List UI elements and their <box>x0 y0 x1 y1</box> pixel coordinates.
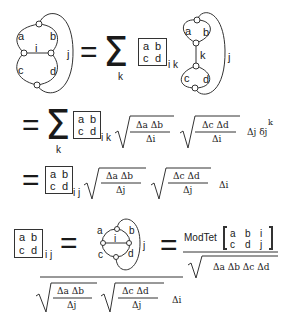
sqrt1-denominator: Δi <box>146 135 155 144</box>
equals-sign: = <box>80 37 98 67</box>
sum-index: k <box>56 145 61 155</box>
sum-symbol: Σ <box>45 105 70 145</box>
trailing-factor: Δj δj <box>247 128 267 137</box>
edge-label-j: j <box>143 240 145 251</box>
symbol-box: a b c d <box>14 229 43 258</box>
kronecker-superscript: k <box>268 118 273 127</box>
edge-label-c: c <box>184 73 190 84</box>
edge-label-d: d <box>203 74 209 85</box>
box-entry-c: c <box>50 181 56 192</box>
edge-label-d: d <box>50 66 56 77</box>
edge-label-i: i <box>35 43 37 54</box>
equals-sign: = <box>160 230 178 260</box>
edge-label-a: a <box>18 31 24 42</box>
sqrt1-numerator: Δa Δb <box>136 121 163 130</box>
box-subscript: i k <box>101 133 111 143</box>
box-entry-b: b <box>62 169 68 180</box>
edge-label-b: b <box>203 27 209 38</box>
edge-label-j: j <box>228 52 230 63</box>
modtet-entry: d <box>245 239 251 250</box>
equals-sign: = <box>22 165 40 195</box>
modtet-entry: j <box>260 239 262 250</box>
box-entry-a: a <box>19 232 25 243</box>
trailing-factor: Δi <box>219 181 228 190</box>
edge-label-c: c <box>98 249 103 260</box>
box-subscript: i j <box>73 188 80 198</box>
sqrt2-denominator: Δj <box>183 186 192 195</box>
edge-label-i: i <box>114 233 116 244</box>
box-subscript: i j <box>45 250 52 260</box>
sqrt2-numerator: Δc Δd <box>202 121 229 130</box>
modtet-label: ModTet <box>184 232 217 243</box>
equals-sign: = <box>22 110 40 140</box>
sqrt1-denominator: Δj <box>116 186 125 195</box>
box-entry-c: c <box>78 126 84 137</box>
equals-sign: = <box>60 228 78 258</box>
sqrt2-numerator: Δc Δd <box>173 172 200 181</box>
sqrt2-denominator: Δi <box>212 135 221 144</box>
edge-label-a: a <box>97 225 103 236</box>
modtet-entry: a <box>230 228 236 239</box>
edge-label-j: j <box>67 49 69 60</box>
edge-label-c: c <box>18 65 24 76</box>
sqrt1-denominator: Δj <box>67 301 76 310</box>
symbol-box: a b c d <box>73 111 101 139</box>
box-entry-d: d <box>62 181 68 192</box>
sqrt1-numerator: Δa Δb <box>106 172 133 181</box>
symbol-box: a b c d <box>45 166 73 194</box>
box-entry-b: b <box>31 232 37 243</box>
box-entry-d: d <box>155 53 161 64</box>
modtet-entry: i <box>260 228 262 239</box>
sqrt2-denominator: Δj <box>132 301 141 310</box>
edge-label-b: b <box>50 31 56 42</box>
box-entry-a: a <box>50 169 56 180</box>
box-entry-b: b <box>90 114 96 125</box>
box-entry-d: d <box>90 126 96 137</box>
edge-label-k: k <box>200 50 206 61</box>
box-entry-a: a <box>143 41 149 52</box>
edge-label-b: b <box>129 225 135 236</box>
trailing-factor: Δi <box>172 296 181 305</box>
sum-index: k <box>118 72 123 82</box>
edge-label-a: a <box>185 26 191 37</box>
box-entry-b: b <box>155 41 161 52</box>
box-entry-c: c <box>143 53 149 64</box>
box-subscript: i k <box>168 60 178 70</box>
modtet-denominator: Δa Δb Δc Δd <box>213 263 270 272</box>
modtet-entry: b <box>245 228 251 239</box>
sqrt2-numerator: Δc Δd <box>122 287 149 296</box>
box-entry-d: d <box>31 245 37 256</box>
edge-label-d: d <box>128 248 134 259</box>
sqrt1-numerator: Δa Δb <box>57 287 84 296</box>
symbol-box: a b c d <box>138 38 167 66</box>
modtet-entry: c <box>230 239 235 250</box>
box-entry-a: a <box>78 114 84 125</box>
box-entry-c: c <box>19 245 25 256</box>
sum-symbol: Σ <box>103 32 128 72</box>
